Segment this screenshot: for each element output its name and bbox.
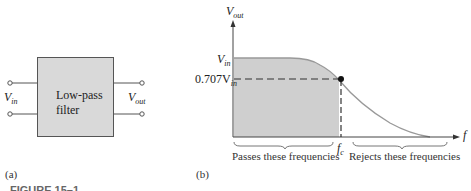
vout-label: Vout [128, 90, 146, 106]
block-label-line1: Low-pass [56, 88, 103, 103]
x-axis-arrow [453, 135, 460, 140]
level-tick-label: 0.707Vin [195, 72, 237, 88]
x-axis-label: f [463, 128, 466, 143]
pass-region-label: Passes these frequencies [232, 150, 340, 162]
panel-a-label: (a) [5, 168, 17, 180]
y-axis-label: Vout [226, 4, 244, 20]
vin-tick-label: Vin [217, 52, 231, 68]
reject-region-label: Rejects these frequencies [349, 150, 460, 162]
vin-label: Vin [4, 90, 18, 106]
pass-brace [234, 142, 333, 149]
y-axis-arrow [231, 20, 236, 27]
figure-caption: FIGURE 15–1 [10, 184, 79, 191]
passband-shade [234, 58, 339, 137]
reject-brace [353, 142, 447, 149]
cutoff-point [338, 76, 344, 82]
block-label-line2: filter [56, 103, 103, 118]
panel-b-label: (b) [196, 168, 209, 180]
block-label: Low-pass filter [56, 88, 103, 118]
